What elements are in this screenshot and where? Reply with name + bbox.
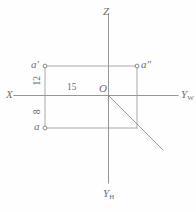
dimension-label-8: 8 (33, 105, 43, 118)
point-marker-a-side (135, 64, 139, 68)
point-label-a-front: a′ (31, 59, 39, 70)
origin-label: O (99, 83, 107, 94)
axis-label-yw: YW (181, 89, 194, 102)
dimension-label-12: 12 (33, 74, 43, 87)
axis-label-x: X (6, 89, 13, 100)
drawing-canvas: X Z YW YH O a′ a″ a 12 15 8 (0, 0, 196, 212)
axis-sublabel-h: H (109, 193, 114, 201)
axis-label-z: Z (103, 6, 109, 17)
dimension-label-15: 15 (67, 83, 77, 93)
axis-sublabel-w: W (187, 94, 194, 102)
point-label-a-top: a (34, 121, 40, 132)
projection-diagram (0, 0, 196, 212)
point-marker-a-top (43, 126, 47, 130)
point-label-a-side: a″ (141, 59, 151, 70)
bisector-line-45deg (109, 96, 164, 151)
point-marker-a-front (43, 64, 47, 68)
axis-label-yh: YH (103, 188, 114, 201)
